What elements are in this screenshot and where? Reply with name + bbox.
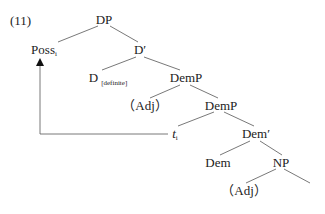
- edge-dembar-np: [260, 141, 282, 155]
- edge-dbar-d: [102, 57, 136, 70]
- edge-demp-demp: [190, 85, 218, 98]
- edge-dp-dbar: [110, 26, 138, 42]
- node-dp: DP: [96, 13, 113, 26]
- node-adj-2: （Adj）: [221, 184, 267, 197]
- edge-np-empty: [284, 169, 310, 183]
- node-d-bar: D′: [134, 43, 146, 56]
- node-d-feature: [definite]: [101, 79, 127, 87]
- node-poss-label: Poss: [31, 42, 55, 57]
- edge-demp-dembar: [224, 112, 254, 126]
- edge-demp-trace: [178, 112, 214, 126]
- edge-dembar-dem: [220, 141, 250, 155]
- node-trace: ti: [172, 127, 178, 142]
- node-trace-index: i: [176, 134, 178, 142]
- edge-dbar-demp: [144, 57, 180, 70]
- edge-np-adj: [246, 169, 276, 183]
- node-dem-bar: Dem′: [242, 127, 270, 140]
- node-dem: Dem: [205, 156, 230, 169]
- node-d: D[definite]: [89, 71, 127, 87]
- node-poss: Possi: [31, 43, 57, 58]
- example-number: (11): [10, 14, 31, 27]
- node-adj-1: （Adj）: [122, 99, 168, 112]
- node-poss-index: i: [55, 50, 57, 58]
- node-d-label: D: [89, 70, 98, 85]
- edge-demp-adj: [150, 85, 180, 98]
- edge-dp-poss: [58, 26, 98, 42]
- arrowhead-icon: [36, 58, 44, 66]
- node-demp-1: DemP: [170, 71, 203, 84]
- node-demp-2: DemP: [205, 99, 238, 112]
- node-np: NP: [273, 156, 290, 169]
